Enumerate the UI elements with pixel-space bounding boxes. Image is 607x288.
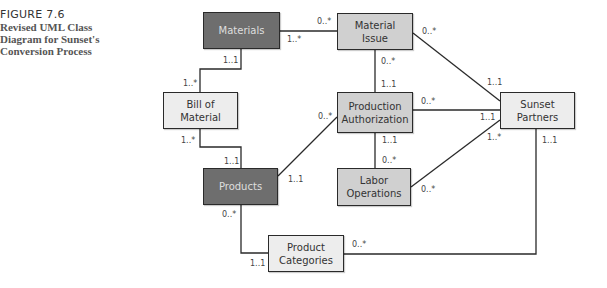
class-label: ProductCategories bbox=[279, 241, 333, 267]
multiplicity: 1..1 bbox=[223, 56, 238, 65]
multiplicity: 1..1 bbox=[382, 136, 397, 145]
multiplicity: 0..* bbox=[317, 17, 331, 26]
assoc-labor-sunset bbox=[411, 120, 500, 187]
multiplicity: 1..* bbox=[487, 133, 501, 142]
multiplicity: 0..* bbox=[421, 97, 435, 106]
class-label: LaborOperations bbox=[347, 174, 402, 200]
class-label: Bill ofMaterial bbox=[180, 98, 221, 124]
class-label: SunsetPartners bbox=[517, 98, 559, 124]
multiplicity: 1..1 bbox=[250, 259, 265, 268]
class-products[interactable]: Products bbox=[203, 168, 278, 205]
multiplicity: 1..1 bbox=[381, 80, 396, 89]
class-label: MaterialIssue bbox=[355, 19, 396, 45]
class-label: ProductionAuthorization bbox=[342, 100, 409, 126]
class-product-categories[interactable]: ProductCategories bbox=[268, 235, 344, 272]
multiplicity: 0..* bbox=[318, 112, 332, 121]
multiplicity: 1..1 bbox=[487, 78, 502, 87]
class-bill-of-material[interactable]: Bill ofMaterial bbox=[163, 92, 238, 129]
class-label: Products bbox=[219, 180, 262, 193]
multiplicity: 1..1 bbox=[480, 113, 495, 122]
assoc-products-pa bbox=[278, 117, 337, 176]
multiplicity: 0..* bbox=[222, 210, 236, 219]
class-material-issue[interactable]: MaterialIssue bbox=[337, 13, 413, 50]
multiplicity: 0..* bbox=[381, 57, 395, 66]
multiplicity: 1..1 bbox=[542, 136, 557, 145]
multiplicity: 1..* bbox=[287, 35, 301, 44]
multiplicity: 0..* bbox=[382, 156, 396, 165]
class-production-authorization[interactable]: ProductionAuthorization bbox=[337, 92, 413, 133]
multiplicity: 1..1 bbox=[224, 157, 239, 166]
class-label: Materials bbox=[219, 24, 265, 37]
multiplicity: 0..* bbox=[422, 27, 436, 36]
assoc-issue-sunset bbox=[413, 33, 500, 101]
assoc-products-categories bbox=[241, 205, 268, 253]
multiplicity: 1..* bbox=[183, 79, 197, 88]
class-sunset-partners[interactable]: SunsetPartners bbox=[500, 92, 575, 129]
class-labor-operations[interactable]: LaborOperations bbox=[337, 168, 411, 206]
assoc-materials-bom bbox=[200, 48, 241, 92]
multiplicity: 0..* bbox=[421, 185, 435, 194]
class-materials[interactable]: Materials bbox=[203, 12, 280, 49]
multiplicity: 1..1 bbox=[288, 175, 303, 184]
multiplicity: 0..* bbox=[352, 240, 366, 249]
multiplicity: 1..* bbox=[181, 136, 195, 145]
